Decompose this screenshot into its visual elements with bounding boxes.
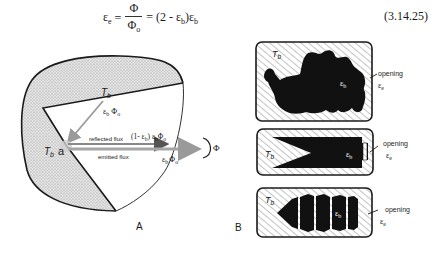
incident-flux-label: εbΦo bbox=[103, 107, 120, 117]
cavity-finned: Tb εb opening εe bbox=[257, 188, 410, 237]
opening-label: opening bbox=[378, 70, 403, 78]
opening-emissivity: εe bbox=[386, 151, 392, 161]
panel-a-label: A bbox=[136, 221, 143, 232]
cavity-irregular: Tb εb opening εe bbox=[256, 42, 403, 121]
reflected-flux-value: (1- εb) εbΦo bbox=[131, 132, 166, 142]
emitted-flux-label: emitted flux bbox=[98, 154, 129, 160]
reflected-flux-label: reflected flux bbox=[89, 136, 123, 142]
opening-label: opening bbox=[385, 206, 410, 214]
opening-emissivity: εe bbox=[380, 217, 386, 227]
cavity-wedge: Tb εb opening εe bbox=[257, 129, 408, 175]
total-flux-label: Φ bbox=[213, 143, 220, 153]
opening-emissivity: εe bbox=[378, 81, 384, 91]
opening-label: opening bbox=[383, 140, 408, 148]
point-a-label: a bbox=[58, 145, 65, 157]
panel-b-label: B bbox=[235, 222, 242, 233]
panel-b: B Tb εb opening εe Tb εb opening εe Tb bbox=[235, 42, 410, 237]
opening-boundary bbox=[116, 83, 183, 211]
figure: Tb εbΦo reflected flux (1- εb) εbΦo emit… bbox=[0, 0, 438, 253]
panel-a: Tb εbΦo reflected flux (1- εb) εbΦo emit… bbox=[22, 56, 220, 232]
incident-arrow bbox=[69, 101, 103, 141]
total-flux-bracket bbox=[203, 138, 211, 158]
emitted-flux-value: εbΦo bbox=[162, 155, 178, 165]
